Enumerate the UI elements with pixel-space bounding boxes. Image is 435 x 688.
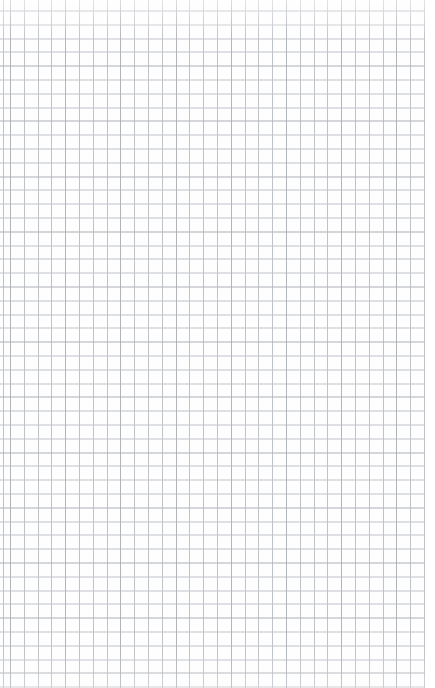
grid-paper-page: Grid Paper — [0, 0, 435, 688]
paper-right-margin — [425, 0, 435, 688]
graph-paper-grid — [0, 0, 435, 688]
